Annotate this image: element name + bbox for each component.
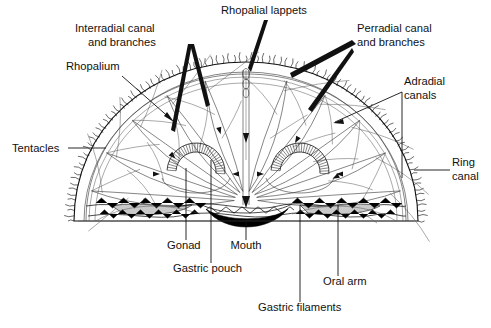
jellyfish-anatomy-diagram: Rhopalial lappets Interradial canal and … (0, 0, 491, 328)
label-oral-arm: Oral arm (323, 275, 367, 287)
label-ring-canal-line1: Ring (452, 156, 475, 168)
label-gastric-filaments: Gastric filaments (258, 301, 342, 313)
label-gastric-pouch: Gastric pouch (173, 262, 242, 274)
label-perradial-canal-line1: Perradial canal (357, 22, 432, 34)
label-gonad: Gonad (167, 239, 201, 251)
label-adradial-canals-line2: canals (404, 89, 437, 101)
label-interradial-canal-line2: and branches (88, 36, 156, 48)
label-interradial-canal-line1: Interradial canal (75, 22, 155, 34)
label-mouth: Mouth (230, 239, 261, 251)
diagram-root: Rhopalial lappets Interradial canal and … (0, 0, 491, 328)
label-perradial-canal-line2: and branches (357, 36, 425, 48)
label-adradial-canals-line1: Adradial (404, 75, 445, 87)
label-tentacles: Tentacles (12, 142, 60, 154)
label-ring-canal-line2: canal (452, 170, 479, 182)
label-rhopalium: Rhopalium (66, 60, 119, 72)
label-rhopalial-lappets: Rhopalial lappets (221, 4, 307, 16)
